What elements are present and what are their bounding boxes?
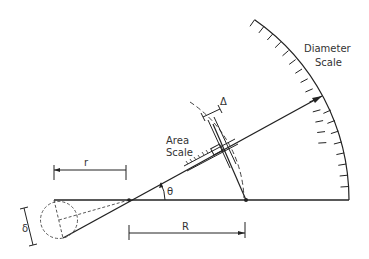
area-scale-label-1: Area — [166, 135, 189, 146]
r-label: r — [84, 157, 89, 168]
diameter-scale-label-2: Scale — [315, 57, 342, 68]
diameter-scale-label-1: Diameter — [304, 43, 352, 54]
pivot-point — [127, 198, 131, 202]
dashed-arc — [190, 102, 244, 198]
R-label: R — [182, 221, 189, 232]
theta-label: θ — [167, 186, 173, 197]
area-scale-label-2: Scale — [166, 147, 193, 158]
cursor-arm — [213, 124, 246, 200]
cone-axis-line — [59, 200, 129, 220]
delta-lower-label: δ — [22, 223, 28, 234]
diagram: δ r R θ Δ Diameter Scale Area — [0, 0, 369, 259]
Delta-dimension-line — [203, 109, 220, 117]
arrow-head-icon — [312, 96, 322, 103]
Delta-upper-label: Δ — [220, 96, 227, 107]
pointer-line — [63, 96, 322, 238]
